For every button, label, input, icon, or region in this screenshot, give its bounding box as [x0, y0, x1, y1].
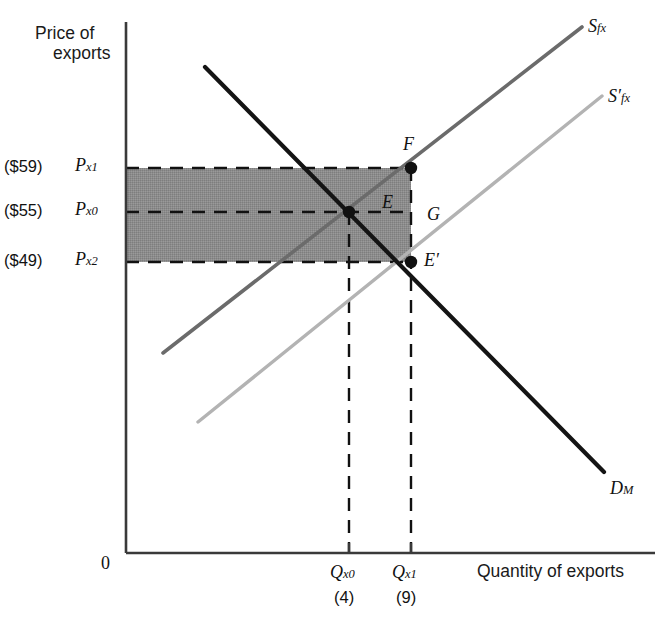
point-marker-F — [405, 162, 417, 174]
price-label-px0: Px0 — [75, 199, 98, 219]
price-money-px2: ($49) — [4, 251, 43, 269]
y-axis-title-line1: Price of — [35, 24, 110, 44]
curve-label-sfx: Sfx — [588, 16, 606, 36]
quantity-label-qx1: Qx1 — [392, 562, 417, 582]
point-label-E: E — [382, 192, 393, 212]
curve-label-sfx-sub: fx — [597, 21, 606, 35]
price-label-px1-sub: x1 — [86, 160, 98, 174]
price-label-px2-var: P — [75, 249, 86, 269]
origin-label: 0 — [101, 553, 110, 573]
price-label-px1-var: P — [75, 155, 86, 175]
curve-label-dm-main: D — [610, 478, 623, 498]
quantity-label-qx0-sub: x0 — [343, 567, 355, 581]
curve-label-sfx-prime: S′fx — [608, 86, 630, 106]
export-price-quantity-diagram: Price of exports ($59) Px1 ($55) Px0 ($4… — [0, 0, 664, 628]
shaded-revenue-region — [126, 168, 411, 262]
quantity-label-qx0-var: Q — [330, 562, 343, 582]
quantity-label-qx0: Qx0 — [330, 562, 355, 582]
price-money-px1: ($59) — [4, 157, 43, 175]
point-label-F: F — [403, 134, 414, 154]
quantity-value-qx1: (9) — [396, 588, 416, 606]
y-axis-title: Price of exports — [35, 24, 110, 63]
quantity-label-qx1-sub: x1 — [405, 567, 417, 581]
point-marker-E — [343, 206, 355, 218]
price-label-px2: Px2 — [75, 249, 98, 269]
quantity-value-qx0: (4) — [334, 588, 354, 606]
price-money-px0: ($55) — [4, 201, 43, 219]
price-label-px0-var: P — [75, 199, 86, 219]
curve-label-dm-sub: M — [623, 483, 633, 497]
curve-label-sfx-prime-main: S — [608, 86, 617, 106]
figure-bottom-margin — [0, 612, 664, 628]
quantity-label-qx1-var: Q — [392, 562, 405, 582]
price-label-px2-sub: x2 — [86, 254, 98, 268]
curve-dm — [205, 67, 604, 472]
x-axis-title: Quantity of exports — [477, 562, 624, 582]
point-label-E-prime: E′ — [424, 250, 439, 270]
price-label-px1: Px1 — [75, 155, 98, 175]
chart-canvas — [0, 0, 664, 628]
point-marker-E-prime — [405, 256, 417, 268]
y-axis-title-line2: exports — [53, 44, 110, 64]
price-label-px0-sub: x0 — [86, 204, 98, 218]
curve-label-dm: DM — [610, 478, 633, 498]
annotation-label-G: G — [427, 204, 440, 224]
curve-label-sfx-prime-sub: fx — [621, 91, 630, 105]
curve-label-sfx-main: S — [588, 16, 597, 36]
